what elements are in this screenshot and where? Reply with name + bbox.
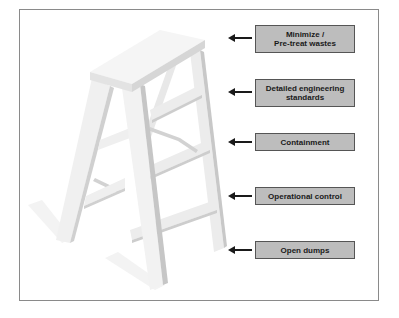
step-label-engineering-standards: Detailed engineering standards (255, 79, 355, 107)
arrow-left-icon (228, 88, 252, 96)
step-label-text: Open dumps (281, 246, 330, 255)
arrow-left-icon (228, 34, 252, 42)
step-label-containment: Containment (255, 133, 355, 151)
step-label-text: Detailed engineering standards (266, 84, 345, 102)
arrow-left-icon (228, 138, 252, 146)
step-label-open-dumps: Open dumps (255, 241, 355, 259)
step-label-text: Minimize / Pre-treat wastes (274, 30, 336, 48)
arrow-left-icon (228, 192, 252, 200)
step-label-minimize-pretreat: Minimize / Pre-treat wastes (255, 25, 355, 53)
arrow-left-icon (228, 246, 252, 254)
step-label-operational-control: Operational control (255, 187, 355, 205)
step-label-text: Operational control (268, 192, 342, 201)
step-label-text: Containment (281, 138, 330, 147)
